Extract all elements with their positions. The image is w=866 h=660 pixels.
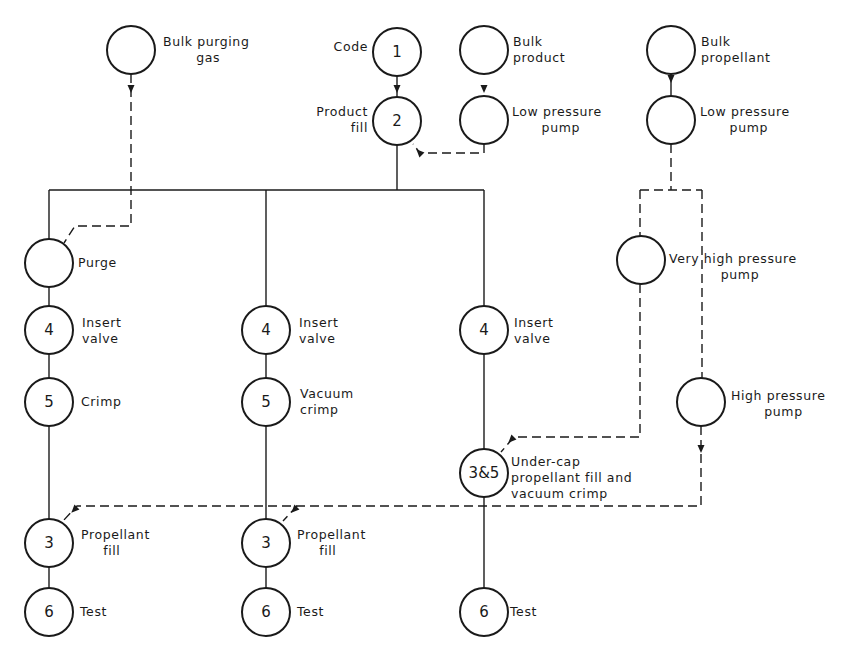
node-label: Test xyxy=(79,604,107,619)
node-very-high-pressure-pump: Very high pressurepump xyxy=(617,236,797,284)
node-code: 4 xyxy=(261,321,271,339)
node-low-pressure-pump-propellant: Low pressurepump xyxy=(647,96,790,144)
node-circle xyxy=(107,26,155,74)
node-circle xyxy=(647,26,695,74)
node-label: Insertvalve xyxy=(82,315,121,346)
node-bulk-purging-gas: Bulk purginggas xyxy=(107,26,249,74)
node-label: Test xyxy=(296,604,324,619)
process-nodes: Bulk purginggas1CodeBulkproductBulkprope… xyxy=(25,26,826,636)
arrowhead-icon xyxy=(668,75,675,83)
node-label: Very high pressurepump xyxy=(669,251,797,282)
node-code: 3&5 xyxy=(469,464,500,482)
node-crimp: 5Crimp xyxy=(25,378,121,426)
node-label: High pressurepump xyxy=(731,388,826,419)
node-label: Productfill xyxy=(316,104,368,135)
node-insert-valve-a: 4Insertvalve xyxy=(25,306,121,354)
solid-flow-lines xyxy=(49,74,671,588)
supply-line xyxy=(413,144,484,153)
node-label: Insertvalve xyxy=(514,315,553,346)
node-code: 4 xyxy=(479,321,489,339)
node-circle xyxy=(460,26,508,74)
node-label: Bulkproduct xyxy=(513,34,565,65)
node-test-c: 6Test xyxy=(460,588,537,636)
node-code: 2 xyxy=(392,112,402,130)
node-label: Insertvalve xyxy=(299,315,338,346)
arrowhead-icon xyxy=(698,445,705,453)
node-circle xyxy=(25,239,73,287)
process-flow-diagram: Bulk purginggas1CodeBulkproductBulkprope… xyxy=(0,0,866,660)
node-purge: Purge xyxy=(25,239,117,287)
node-code: 5 xyxy=(44,393,54,411)
node-label: Low pressurepump xyxy=(700,104,790,135)
node-test-b: 6Test xyxy=(242,588,324,636)
node-low-pressure-pump-product: Low pressurepump xyxy=(460,96,602,144)
node-label: Test xyxy=(509,604,537,619)
node-code: 6 xyxy=(261,603,271,621)
arrowhead-icon xyxy=(414,147,425,158)
node-code: 4 xyxy=(44,321,54,339)
node-code: 6 xyxy=(479,603,489,621)
supply-line xyxy=(64,74,131,243)
node-label: Bulk purginggas xyxy=(163,34,249,65)
node-vacuum-crimp: 5Vacuumcrimp xyxy=(242,378,354,426)
node-circle xyxy=(617,236,665,284)
node-bulk-product: Bulkproduct xyxy=(460,26,565,74)
arrowhead-icon xyxy=(128,85,135,93)
node-bulk-propellant: Bulkpropellant xyxy=(647,26,771,74)
arrowhead-icon xyxy=(481,85,488,93)
node-circle xyxy=(647,96,695,144)
node-label: Propellantfill xyxy=(297,527,366,558)
node-test-a: 6Test xyxy=(25,588,107,636)
supply-line xyxy=(501,284,640,452)
node-label: Propellantfill xyxy=(81,527,150,558)
node-insert-valve-c: 4Insertvalve xyxy=(460,306,553,354)
node-code: 3 xyxy=(44,534,54,552)
node-label: Vacuumcrimp xyxy=(300,386,354,417)
node-high-pressure-pump: High pressurepump xyxy=(677,378,826,426)
node-insert-valve-b: 4Insertvalve xyxy=(242,306,338,354)
node-label: Bulkpropellant xyxy=(701,34,771,65)
node-label: Under-cappropellant fill andvacuum crimp xyxy=(511,454,632,501)
node-propellant-fill-a: 3Propellantfill xyxy=(25,519,150,567)
node-code: 3 xyxy=(261,534,271,552)
node-circle xyxy=(677,378,725,426)
node-label: Purge xyxy=(78,255,117,270)
node-propellant-fill-b: 3Propellantfill xyxy=(242,519,366,567)
arrowhead-icon xyxy=(394,85,401,93)
node-label: Crimp xyxy=(81,394,121,409)
node-code: 5 xyxy=(261,393,271,411)
node-label: Code xyxy=(334,39,368,54)
node-circle xyxy=(460,96,508,144)
node-code: 1Code xyxy=(334,28,421,76)
node-code: 6 xyxy=(44,603,54,621)
node-undercap-fill-vacuum-crimp: 3&5Under-cappropellant fill andvacuum cr… xyxy=(460,449,632,501)
node-code: 1 xyxy=(392,43,402,61)
node-product-fill: 2Productfill xyxy=(316,97,421,145)
node-label: Low pressurepump xyxy=(512,104,602,135)
